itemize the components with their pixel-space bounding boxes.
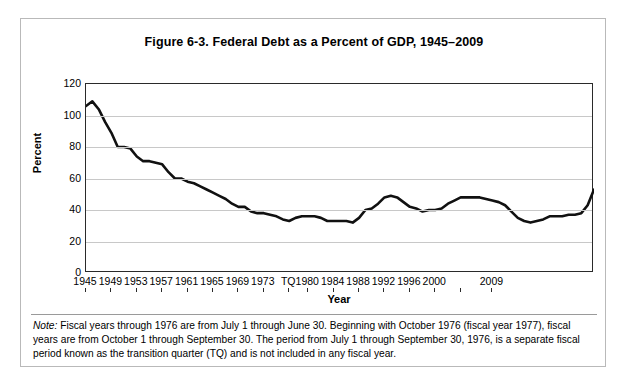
- x-tick-mark: [358, 288, 359, 292]
- x-tick-mark: [212, 288, 213, 292]
- x-tick-mark: [161, 288, 162, 292]
- gridline: [86, 147, 592, 148]
- figure-note: Note: Fiscal years through 1976 are from…: [33, 319, 595, 362]
- y-axis-tick-labels: 020406080100120: [41, 83, 81, 272]
- gridline: [86, 179, 592, 180]
- note-divider: [31, 314, 597, 315]
- y-tick-label: 80: [45, 141, 81, 151]
- x-tick-label: 2009: [469, 275, 513, 287]
- y-tick-label: 120: [45, 78, 81, 88]
- x-tick-mark: [333, 288, 334, 292]
- y-tick-label: 20: [45, 236, 81, 246]
- x-tick-mark: [237, 288, 238, 292]
- x-axis-title: Year: [85, 293, 593, 305]
- y-tick-label: 60: [45, 173, 81, 183]
- x-tick-mark: [85, 288, 86, 292]
- x-tick-mark: [383, 288, 384, 292]
- x-tick-mark: [110, 288, 111, 292]
- x-tick-mark: [187, 288, 188, 292]
- y-tick-label: 100: [45, 110, 81, 120]
- figure-title: Figure 6-3. Federal Debt as a Percent of…: [21, 35, 607, 49]
- y-tick-label: 40: [45, 204, 81, 214]
- x-tick-mark: [434, 288, 435, 292]
- gridline: [86, 210, 592, 211]
- x-tick-label: 2000: [412, 275, 456, 287]
- note-text: Fiscal years through 1976 are from July …: [33, 320, 580, 359]
- plot-area: [85, 83, 593, 272]
- gridline: [86, 242, 592, 243]
- x-tick-mark: [460, 288, 461, 292]
- y-axis-title: Percent: [31, 113, 43, 193]
- gridline: [86, 116, 592, 117]
- x-axis-tick-labels: 19451949195319571961196519691973TQ198019…: [85, 275, 593, 291]
- x-tick-mark: [288, 288, 289, 292]
- x-tick-mark: [491, 288, 492, 292]
- note-label: Note:: [33, 320, 57, 331]
- x-tick-mark: [307, 288, 308, 292]
- x-tick-mark: [409, 288, 410, 292]
- x-tick-mark: [136, 288, 137, 292]
- data-series-line: [86, 101, 594, 222]
- x-tick-mark: [263, 288, 264, 292]
- figure-container: Figure 6-3. Federal Debt as a Percent of…: [20, 18, 606, 367]
